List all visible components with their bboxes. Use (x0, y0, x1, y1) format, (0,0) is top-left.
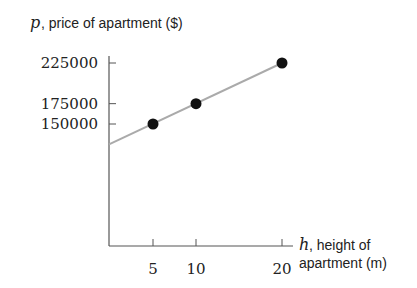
y-ticks: 150000175000225000 (41, 54, 116, 133)
scatter-chart: p , price of apartment ($) 1500001750002… (0, 0, 417, 288)
x-tick-label: 5 (148, 260, 158, 278)
x-axis-label-line2: apartment (m) (299, 255, 387, 271)
x-tick-label: 20 (272, 260, 291, 278)
y-tick-label: 150000 (41, 115, 98, 133)
y-tick-label: 225000 (41, 54, 98, 72)
y-tick-label: 175000 (41, 95, 98, 113)
y-axis-variable: p (30, 13, 40, 32)
data-point (148, 119, 159, 130)
x-axis-label-line1: , height of (309, 237, 371, 253)
y-axis-label: , price of apartment ($) (41, 15, 183, 31)
data-point (277, 58, 288, 69)
x-axis-variable: h (299, 235, 309, 254)
data-point (191, 98, 202, 109)
x-ticks: 51020 (148, 239, 291, 278)
x-tick-label: 10 (186, 260, 205, 278)
